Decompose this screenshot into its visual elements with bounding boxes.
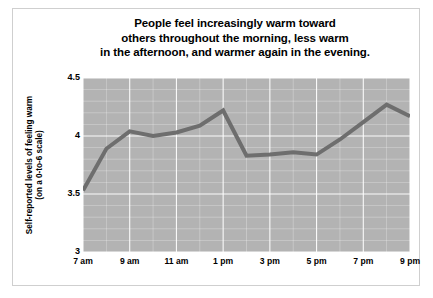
chart-title-line-2: others throughout the morning, less warm (60, 31, 410, 46)
plot-area (83, 78, 410, 252)
x-axis-tick: 3 pm (260, 256, 280, 266)
x-axis-tick: 5 pm (307, 256, 327, 266)
x-axis-tick: 7 pm (353, 256, 373, 266)
x-axis-tick: 11 am (164, 256, 188, 266)
y-axis-label-line-1: Self-reported levels of feeling warm (25, 96, 34, 234)
chart-figure: People feel increasingly warm toward oth… (0, 0, 433, 298)
x-axis-tick: 9 pm (400, 256, 420, 266)
y-axis-tick-labels: 4.543.53 (52, 0, 80, 298)
x-axis-tick-labels: 7 am9 am11 am1 pm3 pm5 pm7 pm9 pm (83, 256, 410, 272)
x-axis-tick: 1 pm (213, 256, 233, 266)
y-axis-tick: 3 (54, 246, 80, 256)
y-axis-tick: 4.5 (54, 72, 80, 82)
y-axis-label: Self-reported levels of feeling warm (on… (25, 78, 45, 252)
line-chart-svg (83, 78, 410, 252)
chart-title-line-3: in the afternoon, and warmer again in th… (60, 45, 410, 60)
chart-title-line-1: People feel increasingly warm toward (60, 16, 410, 31)
y-axis-tick: 3.5 (54, 188, 80, 198)
y-axis-label-text: Self-reported levels of feeling warm (on… (25, 96, 44, 234)
chart-title: People feel increasingly warm toward oth… (60, 16, 410, 60)
x-axis-tick: 9 am (120, 256, 140, 266)
x-axis-tick: 7 am (73, 256, 93, 266)
y-axis-label-line-2: (on a 0-to-6 scale) (35, 96, 45, 234)
y-axis-tick: 4 (54, 130, 80, 140)
gridlines (83, 78, 410, 252)
